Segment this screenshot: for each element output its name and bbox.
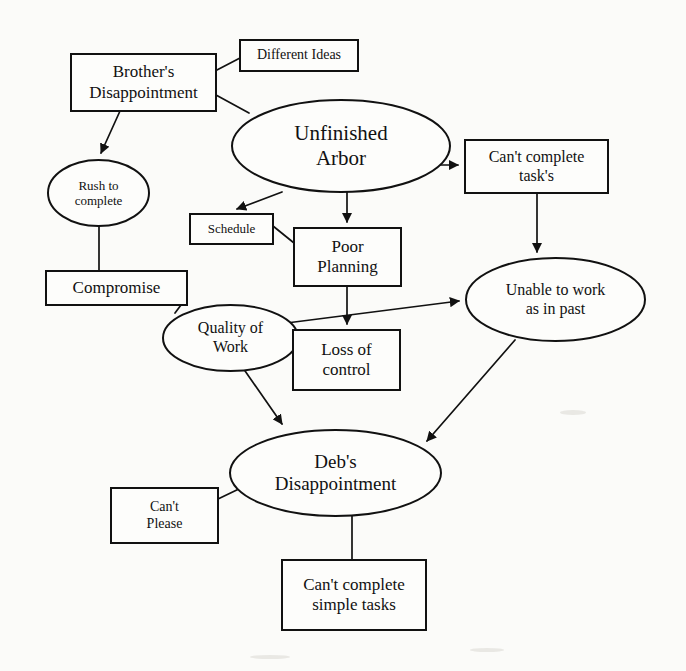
edge-brothers-to-unfinished-arbor [216,95,249,113]
node-shape-loss-of-control[interactable] [293,330,400,390]
node-shape-cant-please[interactable] [111,488,218,543]
node-shape-compromise[interactable] [46,271,187,305]
edge-unfinished-arbor-to-schedule [237,192,282,209]
node-shape-quality-of-work[interactable] [163,305,298,371]
node-shape-debs-disappointment[interactable] [230,430,441,516]
scan-speck [250,655,290,659]
scan-speck [470,648,504,652]
edge-quality-of-work-to-unable-to-work [271,301,459,325]
node-shape-cant-complete-simple-tasks[interactable] [282,560,426,630]
node-shape-schedule[interactable] [190,214,273,244]
diagram-canvas: Different IdeasBrother's DisappointmentU… [0,0,686,671]
node-shape-rush-to-complete[interactable] [48,160,149,226]
diagram-shapes-layer [0,0,686,671]
node-shape-cant-complete-tasks[interactable] [465,140,608,193]
edge-schedule-to-poor-planning [273,226,294,243]
scan-speck [560,410,586,415]
node-shape-different-ideas[interactable] [240,40,358,71]
node-shape-poor-planning[interactable] [294,228,401,286]
edge-brothers-to-rush [101,111,120,153]
node-shape-unable-to-work[interactable] [466,258,645,341]
node-shape-brothers-disappointment[interactable] [71,54,216,111]
edge-different-ideas-to-brothers [215,58,240,71]
edge-unable-to-work-to-debs [427,340,515,441]
edge-quality-of-work-to-debs [243,368,282,424]
node-shape-unfinished-arbor[interactable] [232,100,450,192]
